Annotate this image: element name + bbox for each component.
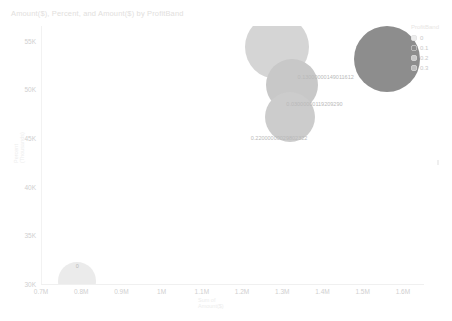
x-axis-title-line2: Amount($) bbox=[198, 303, 224, 309]
legend-item-label: 0 bbox=[420, 35, 423, 41]
x-axis-tick-label: 0.7M bbox=[34, 288, 48, 295]
scrollbar-artifact bbox=[437, 160, 439, 165]
legend-title: ProfitBand bbox=[411, 24, 452, 30]
x-axis-tick-label: 1M bbox=[157, 288, 166, 295]
x-axis-tick-label: 1.2M bbox=[235, 288, 249, 295]
legend-item-label: 0.1 bbox=[420, 45, 428, 51]
legend-swatch-icon bbox=[411, 65, 417, 71]
x-axis-tick-label: 1.4M bbox=[315, 288, 329, 295]
data-point-label: 0.22000000029802322 bbox=[251, 135, 308, 141]
data-layer bbox=[41, 26, 423, 284]
x-axis-tick-label: 0.9M bbox=[114, 288, 128, 295]
legend-item-label: 0.2 bbox=[420, 55, 428, 61]
legend-item[interactable]: 0.2 bbox=[411, 53, 452, 62]
x-axis-line bbox=[41, 284, 424, 285]
data-point-label: 0.13000000149011612 bbox=[298, 74, 354, 80]
y-axis-tick-label: 35K bbox=[24, 232, 36, 239]
data-point-label: 0.03000000119209290 bbox=[286, 101, 342, 107]
legend-item-label: 0.3 bbox=[420, 65, 428, 71]
legend-item[interactable]: 0.3 bbox=[411, 63, 452, 72]
x-axis-tick-label: 0.8M bbox=[74, 288, 88, 295]
data-point-label: 0 bbox=[76, 263, 79, 269]
y-axis-tick-label: 50K bbox=[24, 86, 36, 93]
y-axis-tick-label: 55K bbox=[24, 37, 36, 44]
y-axis-tick-label: 45K bbox=[24, 134, 36, 141]
y-axis-title: Percent (Thousands) bbox=[13, 132, 25, 163]
y-axis-tick-label: 40K bbox=[24, 183, 36, 190]
legend-item[interactable]: 0.1 bbox=[411, 43, 452, 52]
x-axis-tick-label: 1.1M bbox=[195, 288, 209, 295]
legend-item[interactable]: 0 bbox=[411, 33, 452, 42]
legend-swatch-icon bbox=[411, 45, 417, 51]
x-axis-tick-label: 1.6M bbox=[396, 288, 410, 295]
legend-swatch-icon bbox=[411, 35, 417, 41]
y-axis-tick-label: 30K bbox=[24, 281, 36, 288]
chart-container: Amount($), Percent, and Amount($) by Pro… bbox=[0, 0, 452, 321]
chart-title: Amount($), Percent, and Amount($) by Pro… bbox=[11, 9, 184, 18]
plot-area: 55K50K45K40K35K30K 0.7M0.8M0.9M1M1.1M1.2… bbox=[41, 26, 423, 284]
x-axis-tick-label: 1.3M bbox=[275, 288, 289, 295]
x-axis-tick-label: 1.5M bbox=[355, 288, 369, 295]
x-axis-title: Sum of Amount($) bbox=[198, 297, 224, 309]
legend: ProfitBand 00.10.20.3 bbox=[411, 24, 452, 73]
legend-swatch-icon bbox=[411, 55, 417, 61]
data-point-bubble[interactable] bbox=[354, 26, 420, 92]
